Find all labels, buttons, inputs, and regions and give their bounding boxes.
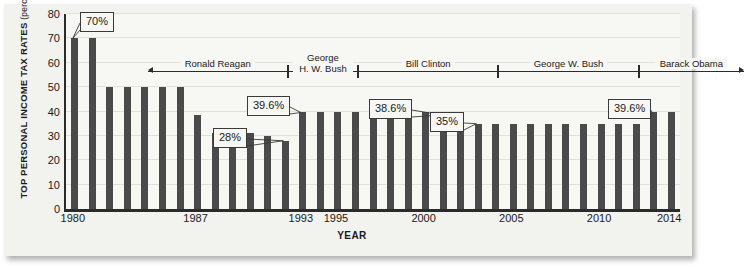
bar (159, 87, 166, 209)
president-term: Bill Clinton (358, 58, 498, 88)
bar (633, 124, 640, 209)
x-tick-label: 1995 (324, 212, 348, 224)
bar (194, 115, 201, 209)
y-axis-title: TOP PERSONAL INCOME TAX RATES (percent) (18, 0, 29, 199)
value-callout: 28% (213, 128, 247, 148)
bar (264, 136, 271, 209)
term-label: Barack Obama (656, 58, 727, 69)
bar (422, 112, 429, 209)
president-term: George W. Bush (498, 58, 638, 88)
x-tick-label: 1993 (289, 212, 313, 224)
bar (668, 112, 675, 209)
bar (177, 87, 184, 209)
y-axis-title-unit: (percent) (19, 0, 29, 20)
bar (106, 87, 113, 209)
bar (510, 124, 517, 209)
bar (598, 124, 605, 209)
value-callout: 39.6% (247, 96, 290, 116)
term-cap-left (358, 65, 359, 78)
bar (387, 112, 394, 209)
bar (615, 124, 622, 209)
bar (334, 112, 341, 209)
bar (282, 141, 289, 209)
term-arrow-left-icon (148, 67, 153, 73)
term-rule (148, 71, 288, 72)
x-tick-label: 2000 (411, 212, 435, 224)
x-tick-label: 1987 (183, 212, 207, 224)
x-tick-label: 2010 (587, 212, 611, 224)
bar (352, 112, 359, 209)
term-cap-left (639, 65, 640, 78)
term-cap-left (498, 65, 499, 78)
bar (475, 124, 482, 209)
x-tick-label: 1980 (61, 212, 85, 224)
term-cap-left (288, 65, 289, 78)
term-arrow-right-icon (739, 67, 744, 73)
x-axis-title: YEAR (0, 230, 704, 241)
y-axis-title-text: TOP PERSONAL INCOME TAX RATES (18, 23, 29, 199)
term-rule (498, 71, 638, 72)
bar (545, 124, 552, 209)
president-term-bands: Ronald ReaganGeorgeH. W. BushBill Clinto… (130, 58, 744, 88)
x-tick-label: 2005 (499, 212, 523, 224)
term-label: Ronald Reagan (181, 58, 255, 69)
bar (405, 112, 412, 209)
term-rule (639, 71, 744, 72)
bar (370, 112, 377, 209)
bar (141, 87, 148, 209)
x-axis-ticks: 19801987199319952000200520102014 (64, 212, 678, 228)
bar (299, 112, 306, 209)
value-callout: 38.6% (369, 99, 412, 119)
term-rule (358, 71, 498, 72)
bar (562, 124, 569, 209)
bar (317, 112, 324, 209)
term-label: George W. Bush (530, 58, 608, 69)
bar (650, 112, 657, 209)
president-term: Ronald Reagan (148, 58, 288, 88)
president-term: Barack Obama (639, 58, 744, 88)
value-callout: 70% (80, 12, 114, 32)
bar (124, 87, 131, 209)
bar (71, 38, 78, 209)
bar (492, 124, 499, 209)
bar (247, 133, 254, 209)
x-tick-label: 2014 (657, 212, 681, 224)
term-label: GeorgeH. W. Bush (293, 53, 353, 74)
president-term: GeorgeH. W. Bush (288, 58, 358, 88)
term-label: Bill Clinton (402, 58, 455, 69)
bar (580, 124, 587, 209)
value-callout: 39.6% (608, 99, 651, 119)
bar (527, 124, 534, 209)
y-tick-label: 0 (20, 204, 60, 215)
value-callout: 35% (430, 112, 464, 132)
bar (89, 38, 96, 209)
